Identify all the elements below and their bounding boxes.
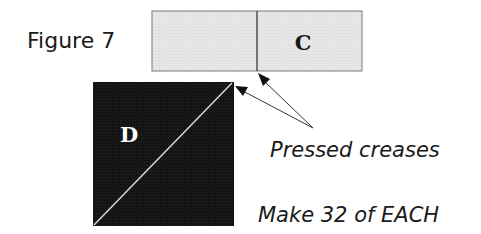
- arrow-to-square-crease-line: [243, 91, 313, 128]
- figure-7-diagram: Figure 7 C D Pressed creases Make 32 of …: [0, 0, 481, 234]
- piece-c-rectangle: C: [152, 11, 362, 71]
- crease-arrows: [235, 73, 313, 128]
- piece-c-letter: C: [295, 30, 312, 55]
- arrow-head-rectangle-icon: [258, 73, 270, 86]
- arrow-head-square-icon: [235, 86, 248, 96]
- quantity-note: Make 32 of EACH: [258, 203, 439, 227]
- piece-d-square: D: [93, 82, 234, 226]
- figure-label: Figure 7: [27, 28, 115, 53]
- pressed-creases-note: Pressed creases: [270, 138, 440, 162]
- arrow-to-rectangle-crease-line: [263, 80, 313, 128]
- piece-d-letter: D: [120, 122, 138, 147]
